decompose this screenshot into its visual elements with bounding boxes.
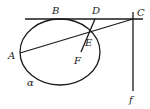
label-line-f: f xyxy=(128,94,135,105)
label-d: D xyxy=(91,5,100,16)
label-a: A xyxy=(7,50,15,61)
label-b: B xyxy=(51,5,59,16)
ellipse-alpha xyxy=(20,19,100,85)
segment-ac xyxy=(20,19,133,53)
label-c: C xyxy=(137,7,145,18)
label-e: E xyxy=(84,37,93,48)
label-alpha: α xyxy=(27,77,34,88)
label-f-point: F xyxy=(73,55,82,66)
geometry-diagram: B D C E F A α f xyxy=(0,0,150,109)
